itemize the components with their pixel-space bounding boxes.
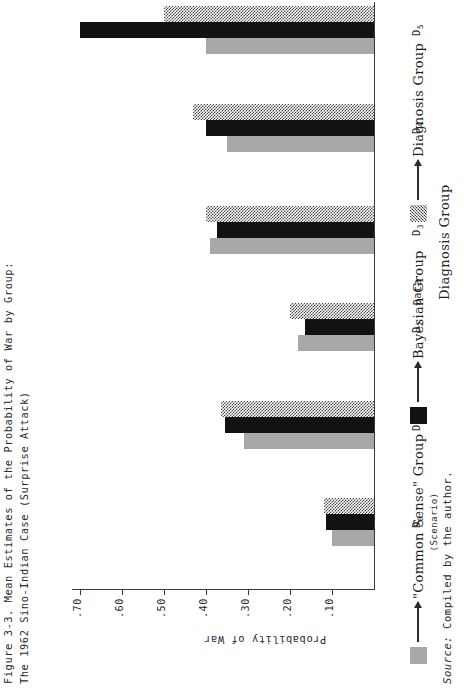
bar-D5-cs	[206, 38, 374, 54]
value-tick-label-.70: .70	[72, 588, 88, 628]
bar-D4-diag	[193, 104, 374, 120]
bar-D2-cs	[298, 335, 374, 351]
bar-D0-bay	[326, 514, 374, 530]
bar-chart-plot-area: .10.20.30.40.50.60.70 D5D4D3D2D1D0(Scena…	[0, 0, 380, 600]
legend-swatch-icon-cs	[410, 647, 427, 664]
legend-arrow-icon	[417, 160, 418, 200]
chart-legend: "Common Sense" GroupBayesian GroupDiagno…	[396, 0, 442, 692]
legend-entry-2: Diagnosis Group	[396, 43, 440, 222]
legend-arrow-icon	[417, 362, 418, 402]
bar-D1-diag	[221, 401, 374, 417]
bar-D3-bay	[217, 222, 375, 238]
bar-D2-diag	[290, 303, 374, 319]
legend-label: "Common Sense" Group	[411, 434, 426, 599]
bar-D4-bay	[206, 120, 374, 136]
bar-D2-bay	[305, 319, 374, 335]
bar-D1-cs	[244, 433, 374, 449]
value-tick-label-.60: .60	[114, 588, 130, 628]
bar-D4-cs	[227, 136, 374, 152]
bar-D5-diag	[164, 6, 374, 22]
source-label: Source:	[441, 636, 453, 684]
legend-label: Bayesian Group	[411, 250, 426, 359]
bar-D1-bay	[225, 417, 374, 433]
bar-D0-cs	[332, 530, 374, 546]
bar-D3-diag	[206, 206, 374, 222]
value-tick-label-.10: .10	[324, 588, 340, 628]
value-tick-label-.30: .30	[240, 588, 256, 628]
legend-entry-1: Bayesian Group	[396, 250, 440, 424]
source-note: Source: Compiled by the author.	[441, 0, 467, 692]
source-text: Compiled by the author.	[441, 471, 453, 636]
legend-arrow-icon	[417, 602, 418, 642]
bar-D5-bay	[80, 22, 374, 38]
legend-swatch-icon-diag	[410, 205, 427, 222]
bar-D3-cs	[210, 238, 374, 254]
bar-D0-diag	[324, 498, 374, 514]
category-axis-line	[374, 2, 375, 590]
legend-entry-0: "Common Sense" Group	[396, 434, 440, 664]
value-axis-title: Probability of War	[150, 634, 380, 646]
legend-swatch-icon-bay	[410, 407, 427, 424]
legend-label: Diagnosis Group	[411, 43, 426, 157]
value-tick-label-.40: .40	[198, 588, 214, 628]
value-tick-label-.20: .20	[282, 588, 298, 628]
value-tick-label-.50: .50	[156, 588, 172, 628]
